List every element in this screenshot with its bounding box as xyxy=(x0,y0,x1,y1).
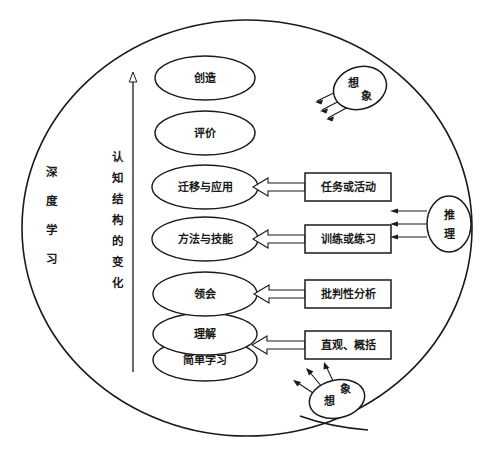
stage-label-evaluate: 评价 xyxy=(194,127,217,139)
deep-learning-char-2: 学 xyxy=(46,223,58,236)
axis-label-char-6: 化 xyxy=(112,276,124,289)
block-arrow-critical xyxy=(254,285,305,303)
axis-label-char-1: 知 xyxy=(111,171,123,184)
activity-box-label-intuition: 直观、概括 xyxy=(321,338,376,351)
imagination-bottom-char-1: 象 xyxy=(340,382,351,395)
stage-node-evaluate[interactable]: 评价 xyxy=(155,111,255,155)
deep-learning-char-0: 深 xyxy=(46,165,58,178)
activity-box-label-training: 训练或练习 xyxy=(321,232,376,245)
imagination-top-char-0: 想 xyxy=(347,76,359,89)
stage-node-understand[interactable]: 理解 xyxy=(153,313,257,355)
diagram-canvas: 深 度 学 习 认 知 结 构 的 变 化 简单学习 理解 xyxy=(0,0,494,454)
cognitive-structure-change-axis xyxy=(129,72,137,372)
stage-label-methods: 方法与技能 xyxy=(178,232,233,245)
stage-node-create[interactable]: 创造 xyxy=(155,56,255,100)
stage-label-understand: 理解 xyxy=(194,327,216,340)
stage-node-transfer[interactable]: 迁移与应用 xyxy=(152,165,258,209)
deep-learning-label: 深 度 学 习 xyxy=(46,165,58,265)
side-node-imagination-bottom[interactable]: 想 象 xyxy=(293,362,368,423)
activity-box-training[interactable]: 训练或练习 xyxy=(305,225,391,253)
activity-box-intuition[interactable]: 直观、概括 xyxy=(305,331,391,359)
axis-label-char-4: 的 xyxy=(112,234,123,247)
stage-label-transfer: 迁移与应用 xyxy=(178,180,233,193)
axis-label-char-0: 认 xyxy=(112,150,124,163)
activity-box-label-critical: 批判性分析 xyxy=(321,287,376,300)
side-node-reasoning[interactable]: 推 理 xyxy=(390,196,471,252)
reasoning-char-0: 推 xyxy=(444,208,455,221)
reasoning-char-1: 理 xyxy=(444,228,455,240)
axis-label-char-5: 变 xyxy=(112,255,124,268)
axis-label-char-2: 结 xyxy=(111,192,124,205)
block-arrow-training xyxy=(253,230,305,248)
stage-node-methods[interactable]: 方法与技能 xyxy=(152,217,258,261)
block-arrow-intuition xyxy=(252,336,305,354)
axis-label: 认 知 结 构 的 变 化 xyxy=(111,150,124,289)
side-node-imagination-top[interactable]: 想 象 xyxy=(315,60,392,122)
deep-learning-char-1: 度 xyxy=(46,194,58,207)
stage-label-create: 创造 xyxy=(193,71,217,84)
activity-box-label-tasks: 任务或活动 xyxy=(320,180,376,193)
block-arrow-tasks xyxy=(253,178,305,196)
activity-box-critical[interactable]: 批判性分析 xyxy=(305,280,391,308)
stage-node-comprehend[interactable]: 领会 xyxy=(153,272,257,316)
stage-label-comprehend: 领会 xyxy=(193,287,217,300)
deep-learning-char-3: 习 xyxy=(46,253,57,265)
axis-label-char-3: 构 xyxy=(112,213,124,226)
deep-learning-diagram: 深 度 学 习 认 知 结 构 的 变 化 简单学习 理解 xyxy=(0,0,494,454)
reasoning-arrows xyxy=(390,208,427,239)
activity-box-tasks[interactable]: 任务或活动 xyxy=(305,173,391,201)
imagination-top-char-1: 象 xyxy=(361,89,372,102)
imagination-bottom-char-0: 想 xyxy=(323,394,335,407)
